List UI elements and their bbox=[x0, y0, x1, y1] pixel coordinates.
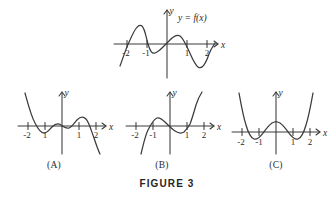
graph-f-panel: x y -2 -1 1 2 y = f(x) bbox=[110, 4, 230, 82]
y-axis-label: y bbox=[278, 88, 284, 98]
graph-b-panel: x y -2 -1 1 2 bbox=[122, 88, 227, 158]
graph-c-svg: x y -2 -1 1 2 bbox=[228, 88, 333, 158]
graph-f-svg: x y -2 -1 1 2 y = f(x) bbox=[110, 4, 230, 82]
graph-a-panel: x y -2 1 1 2 bbox=[14, 88, 119, 158]
y-axis-label: y bbox=[64, 88, 70, 98]
tick-label-neg2: -2 bbox=[23, 130, 31, 140]
tick-label-neg1: 1 bbox=[43, 130, 48, 140]
graph-c-caption: (C) bbox=[246, 160, 306, 170]
y-axis-label: y bbox=[169, 6, 175, 16]
x-axis-label: x bbox=[216, 122, 222, 132]
tick-label-pos1: 1 bbox=[185, 130, 190, 140]
tick-label-neg1: -1 bbox=[255, 137, 263, 147]
tick-label-neg2: -2 bbox=[131, 130, 139, 140]
curve-b bbox=[141, 92, 202, 154]
x-axis-label: x bbox=[322, 128, 328, 138]
graph-c-panel: x y -2 -1 1 2 bbox=[228, 88, 333, 158]
tick-label-pos1: 1 bbox=[185, 48, 190, 58]
figure-caption: FIGURE 3 bbox=[0, 178, 334, 189]
graph-b-caption: (B) bbox=[132, 160, 192, 170]
tick-label-pos1: 1 bbox=[291, 137, 296, 147]
figure-3-illustration: x y -2 -1 1 2 y = f(x) x y -2 1 1 2 bbox=[0, 0, 334, 200]
graph-a-caption: (A) bbox=[24, 160, 84, 170]
graph-b-svg: x y -2 -1 1 2 bbox=[122, 88, 227, 158]
tick-label-pos2: 2 bbox=[205, 48, 210, 58]
x-axis-label: x bbox=[108, 122, 114, 132]
tick-label-neg2: -2 bbox=[122, 48, 130, 58]
tick-label-pos2: 2 bbox=[94, 130, 99, 140]
tick-label-pos1: 1 bbox=[77, 130, 82, 140]
x-axis-label: x bbox=[220, 40, 226, 50]
tick-label-neg1: -1 bbox=[142, 48, 150, 58]
tick-label-pos2: 2 bbox=[308, 137, 313, 147]
tick-label-neg2: -2 bbox=[237, 137, 245, 147]
function-label: y = f(x) bbox=[177, 13, 207, 24]
tick-label-pos2: 2 bbox=[202, 130, 207, 140]
y-axis-label: y bbox=[172, 88, 178, 98]
tick-label-neg1: -1 bbox=[149, 130, 157, 140]
graph-a-svg: x y -2 1 1 2 bbox=[14, 88, 119, 158]
